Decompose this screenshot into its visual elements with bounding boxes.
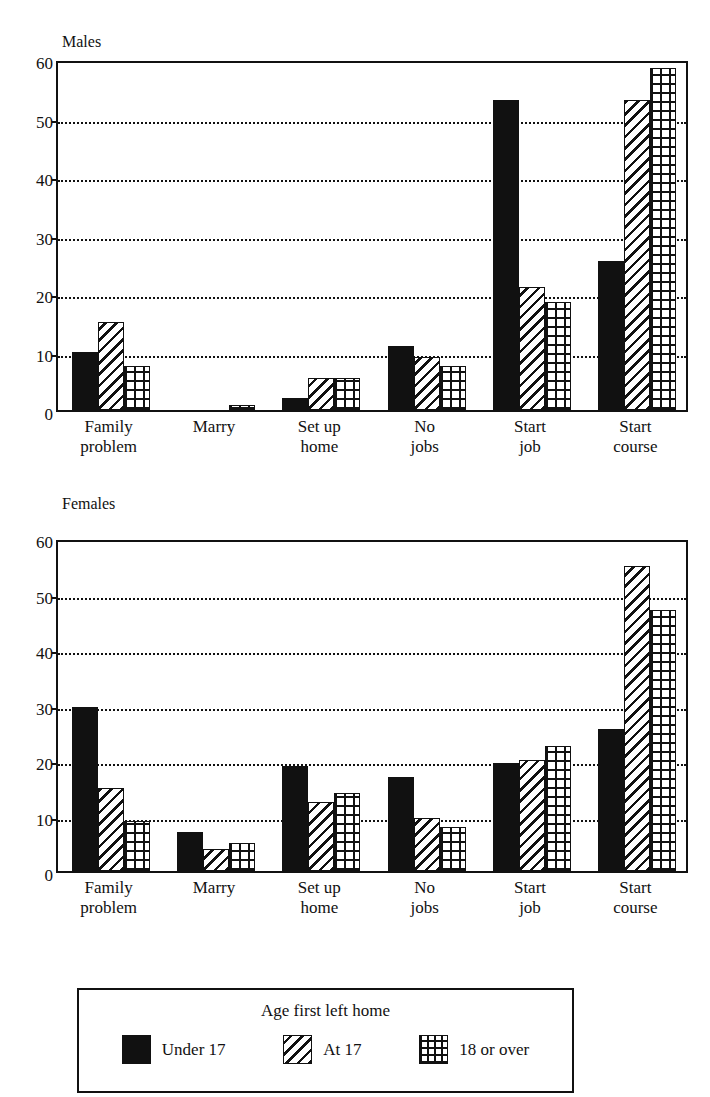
bar	[308, 378, 334, 410]
bar	[124, 821, 150, 871]
x-axis-category-label: Start course	[613, 417, 657, 456]
legend-label: 18 or over	[459, 1040, 529, 1060]
bar	[519, 760, 545, 871]
bar	[545, 746, 571, 871]
x-axis-category-label: Start job	[514, 878, 546, 917]
chart-title: Males	[62, 33, 101, 51]
x-axis-category-label: Family problem	[80, 417, 137, 456]
x-axis-category-label: Marry	[193, 417, 235, 437]
y-axis-tick-label: 60	[36, 55, 53, 72]
legend-item-18-or-over: 18 or over	[419, 1035, 529, 1064]
bar	[334, 378, 360, 410]
bar	[308, 802, 334, 871]
legend-swatch-cross-icon	[419, 1035, 448, 1064]
bar	[388, 346, 414, 410]
bar	[72, 707, 98, 871]
bar	[388, 777, 414, 871]
y-axis-tick-label: 50	[36, 113, 53, 130]
bar	[282, 766, 308, 871]
legend: Age first left home Under 17 At 17 18 or…	[77, 988, 574, 1093]
legend-title: Age first left home	[79, 1001, 572, 1021]
bar	[598, 261, 624, 410]
legend-swatch-solid-icon	[122, 1035, 151, 1064]
x-axis-category-label: Start job	[514, 417, 546, 456]
y-axis-tick-label: 0	[45, 867, 54, 884]
bar	[440, 827, 466, 871]
y-axis-tick-label: 0	[45, 406, 54, 423]
bar	[203, 849, 229, 871]
legend-swatch-hatch-icon	[283, 1035, 312, 1064]
x-axis-category-label: Marry	[193, 878, 235, 898]
legend-item-at-17: At 17	[283, 1035, 361, 1064]
bar	[282, 398, 308, 410]
y-axis-tick-label: 20	[36, 756, 53, 773]
y-axis-tick-label: 10	[36, 811, 53, 828]
bar-group-container	[58, 542, 686, 871]
y-axis-tick-label: 20	[36, 289, 53, 306]
x-axis-category-label: Family problem	[80, 878, 137, 917]
x-axis-category-label: Set up home	[298, 417, 341, 456]
bar	[624, 100, 650, 410]
bar-group-container	[58, 63, 686, 410]
plot-area: 0102030405060	[56, 61, 688, 412]
x-axis-category-label: Start course	[613, 878, 657, 917]
y-axis-tick-label: 40	[36, 645, 53, 662]
x-axis-category-label: No jobs	[410, 878, 438, 917]
bar	[177, 832, 203, 871]
legend-label: At 17	[323, 1040, 361, 1060]
plot-area: 0102030405060	[56, 540, 688, 873]
y-axis-tick-label: 10	[36, 347, 53, 364]
bar	[72, 352, 98, 411]
bar	[624, 566, 650, 871]
bar	[650, 68, 676, 410]
bar	[598, 729, 624, 871]
bar	[334, 793, 360, 871]
bar	[440, 366, 466, 410]
bar	[414, 357, 440, 410]
y-axis-tick-label: 30	[36, 230, 53, 247]
bar	[414, 818, 440, 871]
chart-title: Females	[62, 495, 115, 513]
bar	[545, 302, 571, 410]
bar	[493, 100, 519, 410]
bar	[124, 366, 150, 410]
bar	[650, 610, 676, 871]
y-axis-tick-label: 30	[36, 700, 53, 717]
bar	[229, 843, 255, 871]
legend-label: Under 17	[162, 1040, 226, 1060]
y-axis-tick-label: 50	[36, 589, 53, 606]
bar	[229, 405, 255, 410]
bar	[98, 788, 124, 871]
y-axis-tick-label: 40	[36, 172, 53, 189]
y-axis-tick-label: 60	[36, 534, 53, 551]
legend-item-under-17: Under 17	[122, 1035, 226, 1064]
legend-items: Under 17 At 17 18 or over	[79, 1035, 572, 1064]
bar	[519, 287, 545, 410]
x-axis-category-label: No jobs	[410, 417, 438, 456]
bar	[493, 763, 519, 871]
x-axis-category-label: Set up home	[298, 878, 341, 917]
bar	[98, 322, 124, 410]
